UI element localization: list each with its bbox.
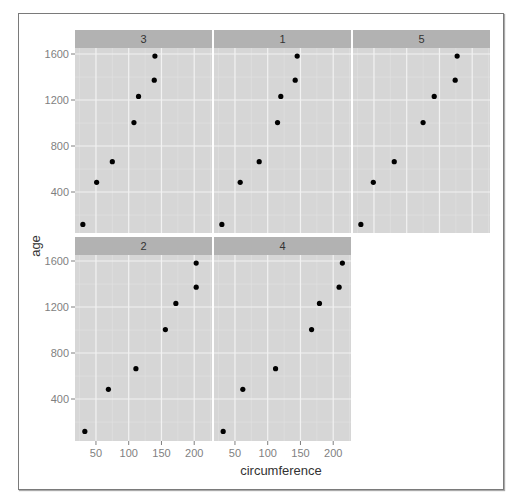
y-tick-label: 1200 (45, 94, 69, 106)
data-point (219, 222, 224, 227)
data-point (80, 222, 85, 227)
data-point (337, 285, 342, 290)
data-point (106, 387, 111, 392)
data-point (257, 159, 262, 164)
y-tick-label: 1200 (45, 301, 69, 313)
data-point (273, 366, 278, 371)
x-tick-label: 150 (152, 447, 170, 459)
data-point (240, 387, 245, 392)
data-point (152, 78, 157, 83)
x-tick-label: 50 (90, 447, 102, 459)
data-point (163, 327, 168, 332)
data-point (221, 429, 226, 434)
x-tick-label: 100 (120, 447, 138, 459)
data-point (392, 159, 397, 164)
facet-panel-3: 340080012001600 (45, 30, 212, 233)
facet-strip-label: 4 (279, 240, 285, 252)
data-point (136, 94, 141, 99)
data-point (131, 120, 136, 125)
y-axis-title: age (28, 235, 43, 257)
facet-panel-2: 24008001200160050100150200 (45, 237, 212, 459)
data-point (317, 301, 322, 306)
data-point (295, 53, 300, 58)
data-point (194, 260, 199, 265)
y-tick-label: 1600 (45, 255, 69, 267)
facet-strip-label: 5 (418, 33, 424, 45)
x-axis-title: circumference (240, 463, 322, 478)
facet-strip-label: 2 (140, 240, 146, 252)
data-point (82, 429, 87, 434)
data-point (371, 180, 376, 185)
y-tick-label: 400 (51, 186, 69, 198)
data-point (340, 260, 345, 265)
data-point (278, 94, 283, 99)
data-point (152, 53, 157, 58)
data-point (94, 180, 99, 185)
y-tick-label: 800 (51, 347, 69, 359)
data-point (133, 366, 138, 371)
y-tick-label: 1600 (45, 48, 69, 60)
y-tick-label: 400 (51, 393, 69, 405)
faceted-scatter-plot: age circumference 3400800120016001524008… (0, 0, 519, 502)
data-point (194, 285, 199, 290)
facet-strip-label: 3 (140, 33, 146, 45)
y-tick-label: 800 (51, 140, 69, 152)
data-point (455, 53, 460, 58)
data-point (238, 180, 243, 185)
data-point (453, 78, 458, 83)
data-point (110, 159, 115, 164)
data-point (173, 301, 178, 306)
facet-strip-label: 1 (279, 33, 285, 45)
data-point (358, 222, 363, 227)
facet-panel-5: 5 (353, 30, 490, 233)
x-tick-label: 150 (291, 447, 309, 459)
x-tick-label: 200 (185, 447, 203, 459)
data-point (275, 120, 280, 125)
x-tick-label: 50 (229, 447, 241, 459)
data-point (432, 94, 437, 99)
facet-panel-1: 1 (214, 30, 351, 233)
x-tick-label: 100 (259, 447, 277, 459)
data-point (420, 120, 425, 125)
data-point (309, 327, 314, 332)
facet-panel-4: 450100150200 (214, 237, 351, 459)
data-point (293, 78, 298, 83)
x-tick-label: 200 (324, 447, 342, 459)
